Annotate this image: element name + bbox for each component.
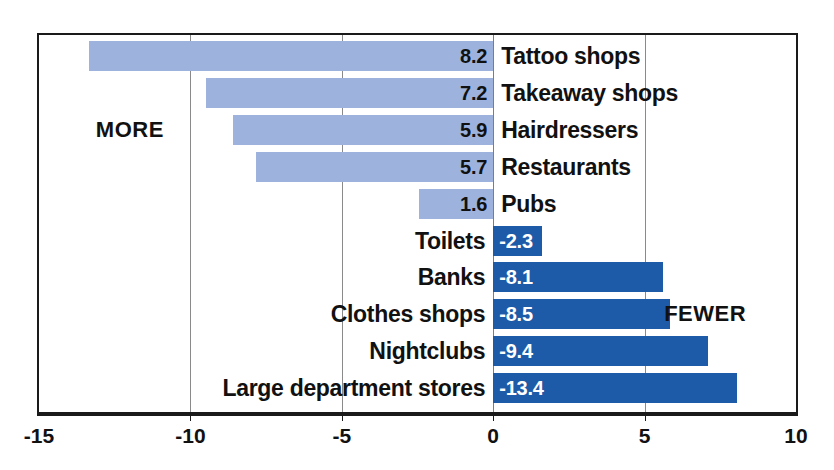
x-tick	[493, 414, 494, 421]
bar-fewer[interactable]: -13.4	[493, 373, 737, 403]
category-label: Large department stores	[222, 373, 485, 403]
x-tick-label: 0	[487, 424, 499, 448]
x-tick-label: 5	[639, 424, 651, 448]
x-tick-label: -10	[175, 424, 205, 448]
bar-value-label: 1.6	[460, 189, 487, 219]
x-tick	[190, 414, 191, 421]
bar-more[interactable]: 5.9	[233, 115, 493, 145]
bar-row: 1.6Pubs	[39, 189, 796, 219]
bar-value-label: -8.1	[499, 262, 533, 292]
bar-more[interactable]: 1.6	[419, 189, 493, 219]
plot-area: 8.2Tattoo shops7.2Takeaway shops5.9Haird…	[39, 35, 796, 412]
category-label: Takeaway shops	[501, 78, 678, 108]
category-label: Restaurants	[501, 152, 631, 182]
category-label: Pubs	[501, 189, 556, 219]
x-tick-label: 10	[784, 424, 807, 448]
annotation-fewer: FEWER	[664, 299, 746, 329]
bar-value-label: -8.5	[499, 299, 533, 329]
plot-frame: 8.2Tattoo shops7.2Takeaway shops5.9Haird…	[37, 33, 798, 414]
x-tick-label: -15	[24, 424, 54, 448]
bar-fewer[interactable]: -8.5	[493, 299, 670, 329]
bar-row: -8.1Banks	[39, 262, 796, 292]
category-label: Clothes shops	[331, 299, 486, 329]
bar-row: -2.3Toilets	[39, 226, 796, 256]
bar-value-label: -13.4	[499, 373, 544, 403]
bar-more[interactable]: 8.2	[89, 41, 493, 71]
x-axis-line	[37, 414, 798, 416]
category-label: Hairdressers	[501, 115, 638, 145]
bar-value-label: 5.9	[460, 115, 487, 145]
category-label: Tattoo shops	[501, 41, 640, 71]
bar-value-label: 8.2	[460, 41, 487, 71]
bar-fewer[interactable]: -8.1	[493, 262, 663, 292]
category-label: Nightclubs	[369, 336, 485, 366]
bar-row: -9.4Nightclubs	[39, 336, 796, 366]
annotation-more: MORE	[96, 115, 164, 145]
bar-more[interactable]: 5.7	[256, 152, 494, 182]
bar-fewer[interactable]: -2.3	[493, 226, 541, 256]
bar-value-label: -2.3	[499, 226, 533, 256]
bar-value-label: 7.2	[460, 78, 487, 108]
bar-value-label: 5.7	[460, 152, 487, 182]
bar-more[interactable]: 7.2	[206, 78, 494, 108]
bar-row: 5.7Restaurants	[39, 152, 796, 182]
bar-row: -13.4Large department stores	[39, 373, 796, 403]
category-label: Banks	[418, 262, 486, 292]
bar-row: 8.2Tattoo shops	[39, 41, 796, 71]
bar-value-label: -9.4	[499, 336, 533, 366]
chart-root: 8.2Tattoo shops7.2Takeaway shops5.9Haird…	[0, 0, 834, 470]
category-label: Toilets	[415, 226, 485, 256]
x-tick-label: -5	[332, 424, 351, 448]
x-tick	[342, 414, 343, 421]
bar-fewer[interactable]: -9.4	[493, 336, 708, 366]
bar-row: 7.2Takeaway shops	[39, 78, 796, 108]
x-tick	[645, 414, 646, 421]
